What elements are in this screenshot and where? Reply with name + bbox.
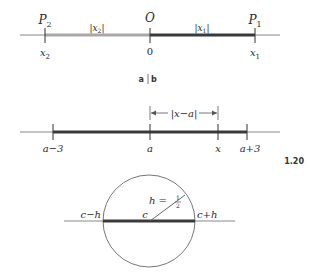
arrow-right-head-icon [212, 111, 217, 116]
label-a: a [147, 143, 153, 154]
arrow-left-head-icon [151, 111, 156, 116]
label-P1: P1 [247, 13, 261, 29]
figure-canvas: P2 O P1 |x2| |x1| x2 0 x1 a b |x−a| a−3 … [0, 0, 311, 279]
radius-label-text: h = [149, 195, 167, 206]
radius-denominator: 2 [176, 202, 180, 209]
label-a-plus-3: a+3 [240, 143, 261, 154]
label-c-plus-h: c+h [197, 209, 217, 220]
panel-c-neighborhood: c c−h c+h h = 1 2 [64, 175, 235, 267]
caption-b: b [151, 75, 157, 84]
label-x: x [215, 143, 221, 154]
label-abs-x1: |x1| [195, 23, 210, 34]
caption-a: a [139, 75, 144, 84]
distance-label: |x−a| [171, 108, 198, 120]
label-O: O [145, 11, 155, 25]
radius-numerator: 1 [176, 194, 180, 201]
label-c: c [142, 209, 148, 220]
panel-b-number-line: |x−a| a−3 a x a+3 [20, 106, 280, 154]
figure-number: 1.20 [284, 157, 304, 166]
panel-a-number-line: P2 O P1 |x2| |x1| x2 0 x1 [20, 11, 280, 61]
label-x1-coord: x1 [250, 47, 260, 61]
label-a-minus-3: a−3 [43, 143, 64, 154]
radius-label: h = 1 2 [149, 194, 181, 209]
label-zero: 0 [147, 46, 153, 57]
label-P2: P2 [37, 13, 51, 29]
label-abs-x2: |x2| [90, 23, 105, 34]
panel-caption: a b [139, 74, 157, 84]
label-x2-coord: x2 [40, 47, 50, 61]
label-c-minus-h: c−h [81, 209, 101, 220]
